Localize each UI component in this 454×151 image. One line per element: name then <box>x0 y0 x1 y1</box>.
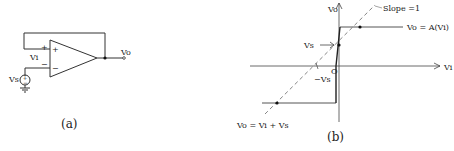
vi-label: Vi <box>29 53 39 62</box>
x-axis-label: Vi <box>443 63 453 72</box>
lower-curve-label: Vo = Vi + Vs <box>236 121 289 130</box>
diagram-canvas: + − + − Vi Vo Vs + − (a) Vo Vi Slope =1 <box>0 0 454 151</box>
vs-label-b: Vs <box>303 41 314 50</box>
slope-line <box>265 5 375 114</box>
lower-intersection-dot <box>275 101 278 104</box>
slope-label: Slope =1 <box>383 4 420 13</box>
inv-minus: − <box>52 64 59 73</box>
output-terminal <box>123 57 126 60</box>
y-axis-label: Vo <box>327 5 338 14</box>
caption-a: (a) <box>61 117 78 131</box>
caption-b: (b) <box>327 130 344 144</box>
neg-vs-label: −Vs <box>314 75 331 84</box>
origin-label: O <box>331 67 338 76</box>
opamp-circuit <box>20 33 124 92</box>
input-wire <box>25 68 50 76</box>
output-node-dot <box>103 56 106 59</box>
transfer-plot <box>250 3 440 122</box>
vi-minus: − <box>41 60 48 69</box>
upper-intersection-dot <box>358 25 361 28</box>
source-minus: − <box>23 79 28 86</box>
vs-intercept-dot <box>337 43 340 46</box>
upper-curve-label: Vo = A(Vi) <box>406 23 449 32</box>
vs-label: Vs <box>8 75 19 84</box>
vi-plus: + <box>41 43 48 52</box>
vo-label: Vo <box>120 48 131 57</box>
noninv-plus: + <box>52 45 59 54</box>
slope-leader <box>375 6 382 8</box>
